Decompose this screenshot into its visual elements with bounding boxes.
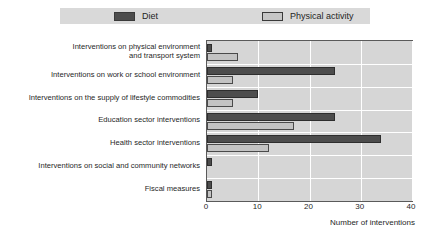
x-tick-label: 30 <box>355 202 364 212</box>
y-axis-label: Education sector interventions <box>98 115 200 124</box>
x-tick-label: 10 <box>253 202 262 212</box>
row-separator <box>207 132 412 133</box>
y-axis-label: Fiscal measures <box>145 184 200 193</box>
legend-item-physical-activity: Physical activity <box>262 12 354 21</box>
x-tick-label: 40 <box>407 202 416 212</box>
row-separator <box>207 155 412 156</box>
gridline <box>412 41 413 201</box>
bar-diet <box>207 181 212 189</box>
bar-physical-activity <box>207 99 233 107</box>
row-separator <box>207 64 412 65</box>
legend-label-diet: Diet <box>142 12 158 21</box>
row-separator <box>207 110 412 111</box>
gridline <box>361 41 362 201</box>
plot-area <box>206 40 413 202</box>
bar-physical-activity <box>207 76 233 84</box>
legend-swatch-icon <box>114 12 135 21</box>
y-axis-label: Health sector interventions <box>110 138 200 147</box>
bar-diet <box>207 90 258 98</box>
bar-physical-activity <box>207 122 294 130</box>
x-axis-title: Number of interventions <box>0 218 415 228</box>
row-separator <box>207 87 412 88</box>
x-axis-ticks: 010203040 <box>206 202 412 214</box>
x-tick-label: 0 <box>204 202 208 212</box>
y-axis-label: Interventions on the supply of lifestyle… <box>29 93 200 102</box>
bar-physical-activity <box>207 190 212 198</box>
gridline <box>310 41 311 201</box>
y-axis-label: Interventions on social and community ne… <box>38 161 200 170</box>
bar-diet <box>207 113 335 121</box>
y-axis-label: Interventions on physical environment an… <box>73 42 200 60</box>
bar-physical-activity <box>207 53 238 61</box>
bar-diet <box>207 44 212 52</box>
y-axis-label: Interventions on work or school environm… <box>51 70 200 79</box>
chart-legend: Diet Physical activity <box>60 8 370 24</box>
bar-diet <box>207 135 381 143</box>
bar-diet <box>207 158 212 166</box>
y-axis-category-labels: Interventions on physical environment an… <box>0 40 203 200</box>
bar-chart: Diet Physical activity Interventions on … <box>0 0 421 238</box>
row-separator <box>207 178 412 179</box>
bar-physical-activity <box>207 144 269 152</box>
legend-swatch-icon <box>262 12 283 21</box>
x-tick-label: 20 <box>304 202 313 212</box>
legend-item-diet: Diet <box>114 12 158 21</box>
bar-diet <box>207 67 335 75</box>
legend-label-physical-activity: Physical activity <box>290 12 354 21</box>
